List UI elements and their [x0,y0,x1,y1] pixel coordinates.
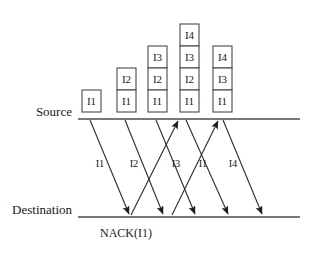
nack-annotation: NACK(I1) [100,226,152,240]
packet-box-label: I3 [185,51,195,63]
packet-box-label: I1 [218,95,227,107]
protocol-sequence-diagram: I1I2I1I3I2I1I4I3I2I1I4I3I1 SourceDestina… [0,0,313,254]
packet-box-label: I2 [185,73,194,85]
packet-stack: I2I1 [117,68,136,112]
message-arrow-label: I1 [199,158,208,169]
packet-box-label: I2 [153,73,162,85]
timeline-label-source: Source [36,104,72,119]
packet-box-label: I1 [87,95,96,107]
message-arrow-label: I4 [229,158,238,169]
message-arrow-label: I2 [130,158,139,169]
message-arrow-label: I1 [96,158,105,169]
packet-stack: I1 [82,90,101,112]
packet-box-label: I1 [122,95,131,107]
annotation-group: NACK(I1) [100,226,152,240]
message-arrow-label: I3 [172,158,181,169]
packet-box-label: I3 [153,51,163,63]
packet-stack: I3I2I1 [148,46,167,112]
packet-box-label: I1 [185,95,194,107]
packet-box-label: I1 [153,95,162,107]
packet-box-label: I3 [218,73,228,85]
message-arrow-group: I1I2I3I1I4 [90,120,262,215]
packet-stack: I4I3I1 [213,46,232,112]
packet-box-label: I2 [122,73,131,85]
packet-box-label: I4 [185,29,195,41]
timeline-label-destination: Destination [12,202,72,217]
packet-stack: I4I3I2I1 [180,24,199,112]
packet-stack-group: I1I2I1I3I2I1I4I3I2I1I4I3I1 [82,24,232,112]
packet-box-label: I4 [218,51,228,63]
